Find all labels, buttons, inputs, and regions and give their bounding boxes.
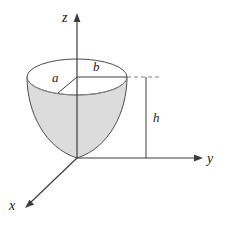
x-axis-line bbox=[30, 158, 77, 203]
z-axis-arrowhead bbox=[74, 13, 81, 22]
x-axis-label: x bbox=[8, 198, 16, 213]
height-label: h bbox=[153, 110, 160, 125]
radius-a-label: a bbox=[52, 70, 59, 85]
radius-b-label: b bbox=[93, 59, 100, 74]
paraboloid-diagram-svg: z y x b a h bbox=[0, 0, 227, 227]
y-axis-label: y bbox=[205, 151, 214, 166]
y-axis-arrowhead bbox=[194, 155, 203, 162]
figure-container: z y x b a h bbox=[0, 0, 227, 227]
z-axis-label: z bbox=[61, 10, 68, 25]
